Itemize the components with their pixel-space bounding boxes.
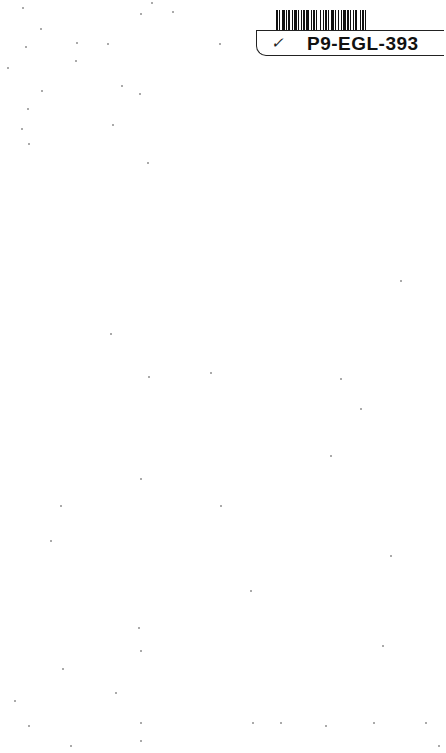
scanned-page: ✓ P9-EGL-393 — [0, 0, 446, 753]
barcode — [276, 10, 440, 30]
handwritten-check-mark: ✓ — [271, 34, 284, 52]
barcode-label: ✓ P9-EGL-393 — [256, 30, 444, 56]
barcode-id-text: P9-EGL-393 — [307, 33, 419, 55]
